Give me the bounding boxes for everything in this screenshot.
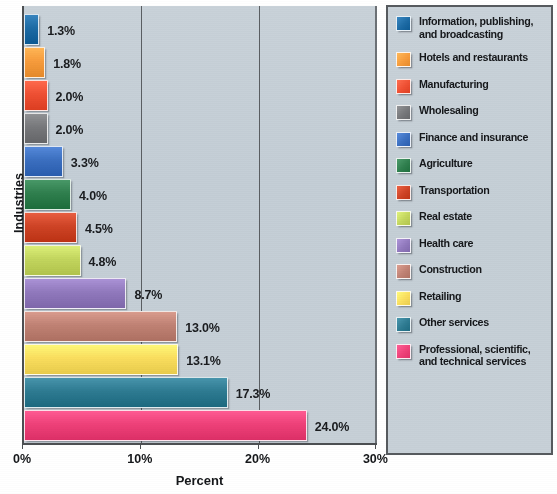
legend-item-2[interactable]: Hotels and restaurants	[396, 51, 545, 67]
legend-item-11[interactable]: Retailing	[396, 290, 545, 306]
bar-value-label: 4.5%	[85, 222, 113, 236]
legend-label: Real estate	[419, 210, 472, 223]
x-tick-mark-10	[140, 443, 141, 449]
bar-7[interactable]	[24, 212, 77, 243]
legend-item-4[interactable]: Wholesaling	[396, 104, 545, 120]
legend-label: Finance and insurance	[419, 131, 528, 144]
x-tick-mark-30	[375, 443, 376, 449]
bar-row: 2.0%	[24, 113, 376, 146]
bar-row: 8.7%	[24, 278, 376, 311]
bar-value-label: 24.0%	[315, 420, 349, 434]
legend-item-8[interactable]: Real estate	[396, 210, 545, 226]
legend-item-12[interactable]: Other services	[396, 316, 545, 332]
bar-row: 17.3%	[24, 377, 376, 410]
legend-swatch-icon	[396, 132, 411, 147]
bar-value-label: 1.8%	[53, 57, 81, 71]
legend-label: Transportation	[419, 184, 489, 197]
bar-series: 1.3%1.8%2.0%2.0%3.3%4.0%4.5%4.8%8.7%13.0…	[24, 14, 376, 443]
legend-swatch-icon	[396, 52, 411, 67]
chart-page: 1.3%1.8%2.0%2.0%3.3%4.0%4.5%4.8%8.7%13.0…	[0, 0, 557, 494]
bar-3[interactable]	[24, 80, 48, 111]
bar-row: 4.0%	[24, 179, 376, 212]
legend-label: Professional, scientific, and technical …	[419, 343, 530, 369]
legend-swatch-icon	[396, 238, 411, 253]
legend-swatch-icon	[396, 317, 411, 332]
legend-swatch-icon	[396, 344, 411, 359]
legend-item-5[interactable]: Finance and insurance	[396, 131, 545, 147]
bar-12[interactable]	[24, 377, 228, 408]
legend-item-9[interactable]: Health care	[396, 237, 545, 253]
legend-label: Agriculture	[419, 157, 473, 170]
legend-item-7[interactable]: Transportation	[396, 184, 545, 200]
bar-row: 24.0%	[24, 410, 376, 443]
y-axis-title: Industries	[12, 160, 26, 246]
bar-11[interactable]	[24, 344, 178, 375]
bar-value-label: 13.0%	[185, 321, 219, 335]
legend-label: Hotels and restaurants	[419, 51, 528, 64]
bar-value-label: 4.0%	[79, 189, 107, 203]
bar-4[interactable]	[24, 113, 48, 144]
bar-row: 2.0%	[24, 80, 376, 113]
legend-swatch-icon	[396, 185, 411, 200]
bar-5[interactable]	[24, 146, 63, 177]
bar-9[interactable]	[24, 278, 126, 309]
bar-value-label: 17.3%	[236, 387, 270, 401]
legend-item-10[interactable]: Construction	[396, 263, 545, 279]
gridline-30	[376, 6, 377, 443]
legend-swatch-icon	[396, 105, 411, 120]
x-tick-label-30: 30%	[363, 452, 388, 466]
bar-13[interactable]	[24, 410, 307, 441]
bar-1[interactable]	[24, 14, 39, 45]
legend-swatch-icon	[396, 264, 411, 279]
legend-label: Retailing	[419, 290, 461, 303]
bar-row: 1.8%	[24, 47, 376, 80]
legend-item-13[interactable]: Professional, scientific, and technical …	[396, 343, 545, 369]
bar-row: 13.0%	[24, 311, 376, 344]
bar-value-label: 8.7%	[134, 288, 162, 302]
x-tick-mark-20	[258, 443, 259, 449]
legend-swatch-icon	[396, 211, 411, 226]
legend-swatch-icon	[396, 291, 411, 306]
bar-row: 4.5%	[24, 212, 376, 245]
bar-row: 3.3%	[24, 146, 376, 179]
x-tick-mark-0	[22, 443, 23, 449]
x-tick-label-20: 20%	[245, 452, 270, 466]
legend-label: Other services	[419, 316, 489, 329]
bar-row: 13.1%	[24, 344, 376, 377]
bar-10[interactable]	[24, 311, 177, 342]
legend-label: Information, publishing, and broadcastin…	[419, 15, 533, 41]
legend-label: Wholesaling	[419, 104, 478, 117]
legend-swatch-icon	[396, 158, 411, 173]
bar-row: 4.8%	[24, 245, 376, 278]
legend-item-6[interactable]: Agriculture	[396, 157, 545, 173]
legend-item-3[interactable]: Manufacturing	[396, 78, 545, 94]
bar-value-label: 1.3%	[47, 24, 75, 38]
bar-value-label: 2.0%	[56, 123, 84, 137]
legend-swatch-icon	[396, 79, 411, 94]
x-axis-line	[22, 443, 377, 445]
bar-row: 1.3%	[24, 14, 376, 47]
bar-8[interactable]	[24, 245, 81, 276]
legend-panel: Information, publishing, and broadcastin…	[386, 5, 553, 455]
legend-label: Manufacturing	[419, 78, 488, 91]
bar-6[interactable]	[24, 179, 71, 210]
bar-value-label: 2.0%	[56, 90, 84, 104]
bar-value-label: 13.1%	[186, 354, 220, 368]
x-tick-label-10: 10%	[127, 452, 152, 466]
bar-2[interactable]	[24, 47, 45, 78]
legend-label: Health care	[419, 237, 473, 250]
x-axis-title: Percent	[22, 473, 377, 488]
x-tick-label-0: 0%	[13, 452, 31, 466]
legend-swatch-icon	[396, 16, 411, 31]
legend-label: Construction	[419, 263, 482, 276]
legend-item-1[interactable]: Information, publishing, and broadcastin…	[396, 15, 545, 41]
bar-value-label: 4.8%	[89, 255, 117, 269]
bar-value-label: 3.3%	[71, 156, 99, 170]
